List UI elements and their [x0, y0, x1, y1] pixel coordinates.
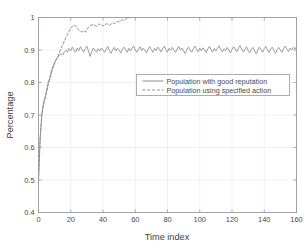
chart-figure: 020406080100120140160 0.40.50.60.70.80.9…: [0, 0, 307, 249]
y-axis-title: Percentage: [5, 92, 15, 139]
legend-label-1: Population with good reputation: [167, 77, 268, 86]
x-tick-label: 60: [131, 215, 139, 224]
line-chart: 020406080100120140160 0.40.50.60.70.80.9…: [0, 0, 307, 249]
x-axis-title: Time index: [145, 232, 190, 242]
y-tick-label: 0.6: [24, 143, 34, 152]
x-tick-label: 140: [258, 215, 270, 224]
y-tick-label: 1: [30, 13, 34, 22]
y-tick-label: 0.9: [24, 46, 34, 55]
x-tick-label: 20: [67, 215, 75, 224]
plot-background: [0, 0, 307, 249]
x-tick-label: 160: [290, 215, 302, 224]
y-tick-label: 0.7: [24, 111, 34, 120]
legend[interactable]: Population with good reputationPopulatio…: [137, 75, 290, 96]
x-tick-label: 80: [163, 215, 171, 224]
y-tick-label: 0.8: [24, 78, 34, 87]
x-tick-label: 100: [194, 215, 206, 224]
y-tick-label: 0.5: [24, 176, 34, 185]
x-tick-label: 120: [226, 215, 238, 224]
x-tick-label: 40: [99, 215, 107, 224]
x-tick-label: 0: [36, 215, 40, 224]
legend-label-2: Population using specified action: [167, 86, 272, 95]
y-tick-label: 0.4: [24, 208, 34, 217]
